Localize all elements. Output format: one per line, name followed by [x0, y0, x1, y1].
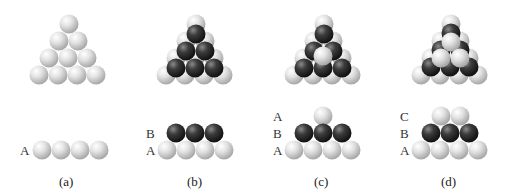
layer-label: A: [273, 143, 283, 158]
panel-c-top-view: [285, 15, 361, 85]
layer-label: B: [400, 126, 409, 141]
layer-label: A: [273, 109, 283, 124]
panel-b-top-view: [157, 15, 233, 85]
layer-label: B: [273, 126, 282, 141]
layer-label: A: [20, 143, 30, 158]
panel-a-top-view: [30, 15, 106, 85]
caption-b: (b): [187, 174, 202, 189]
panel-d-top-view: [412, 15, 488, 85]
panel-b-side-view: [158, 124, 234, 160]
panel-a-side-view: [33, 141, 109, 160]
sphere-packing-diagram: A B A A B A C B A (a) (b) (c) (d): [0, 0, 506, 196]
caption-a: (a): [59, 174, 73, 189]
layer-label: A: [146, 143, 156, 158]
layer-label: A: [400, 143, 410, 158]
caption-c: (c): [314, 174, 328, 189]
caption-d: (d): [441, 174, 456, 189]
layer-label: B: [146, 126, 155, 141]
panel-d-side-view: [412, 107, 488, 160]
layer-label: C: [400, 109, 409, 124]
panel-c-side-view: [285, 107, 361, 160]
